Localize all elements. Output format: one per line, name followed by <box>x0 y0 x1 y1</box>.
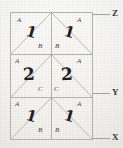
cell-label-row2-right-corner: A <box>77 58 81 65</box>
axis-label-z: Z <box>112 9 118 18</box>
axis-label-y: Y <box>112 88 119 97</box>
cell-label-row2-left-corner: A <box>15 58 19 65</box>
cell-label-row1-left-corner: A <box>17 17 21 24</box>
cell-label-row2-right-inner: C <box>54 86 59 93</box>
cell-label-row1-right-inner: B <box>55 43 59 50</box>
annotation-row2-left: 2 <box>23 66 36 84</box>
cell-label-row3-left-corner: A <box>15 101 19 108</box>
cell-label-row1-left-inner: B <box>38 43 42 50</box>
cell-label-row3-left-inner: B <box>38 127 42 134</box>
cell-label-row1-right-corner: A <box>77 17 81 24</box>
cell-label-row3-right-inner: B <box>55 127 59 134</box>
scanned-figure-canvas: A B 1 A B 1 A C 2 A C 2 A B 1 A B 1 Z Y … <box>0 0 123 148</box>
cell-label-row3-right-corner: A <box>77 101 81 108</box>
cell-label-row2-left-inner: C <box>38 86 43 93</box>
annotation-row2-right: 2 <box>61 66 74 84</box>
axis-label-x: X <box>112 133 119 142</box>
